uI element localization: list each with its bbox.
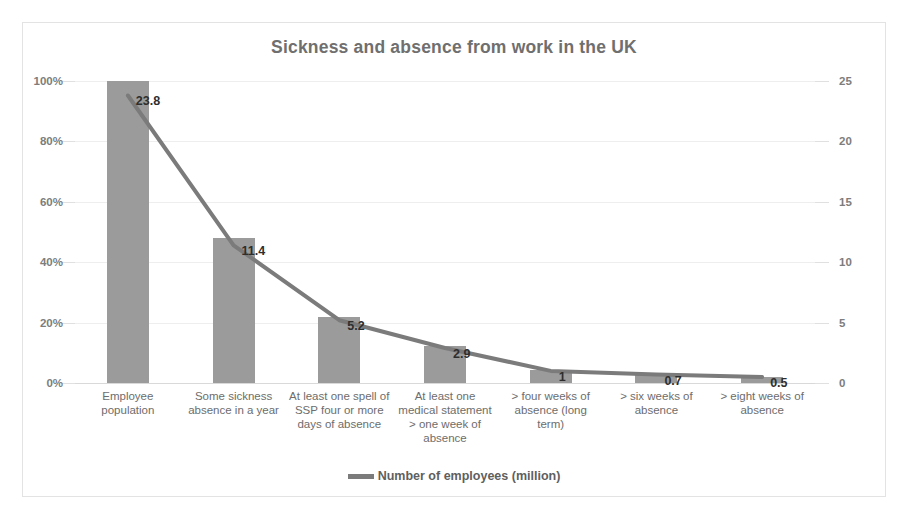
category-label: > four weeks of absence (long term) [500, 389, 601, 431]
category-label: At least one spell of SSP four or more d… [289, 389, 390, 431]
right-axis-label: 20 [839, 135, 852, 147]
legend-label: Number of employees (million) [378, 469, 561, 483]
category-label: Employee population [77, 389, 178, 417]
chart-title: Sickness and absence from work in the UK [23, 37, 885, 58]
left-axis-tick [61, 141, 75, 142]
right-axis-tick [815, 262, 829, 263]
left-axis-tick [61, 323, 75, 324]
left-axis-label: 0% [46, 377, 63, 389]
right-axis-tick [815, 81, 829, 82]
right-axis-label: 0 [839, 377, 845, 389]
plot-area: 0%20%40%60%80%100% 0510152025 23.811.45.… [75, 81, 815, 383]
right-axis-tick [815, 202, 829, 203]
left-axis-tick [61, 262, 75, 263]
data-label: 5.2 [347, 319, 364, 333]
right-axis-label: 10 [839, 256, 852, 268]
right-axis-label: 25 [839, 75, 852, 87]
right-axis-label: 5 [839, 317, 845, 329]
category-axis: Employee populationSome sickness absence… [75, 389, 815, 469]
category-label: Some sickness absence in a year [183, 389, 284, 417]
left-axis-tick [61, 383, 75, 384]
data-label: 1 [559, 370, 566, 384]
legend-line-swatch [348, 474, 374, 479]
line-series [75, 81, 815, 383]
data-label: 2.9 [453, 347, 470, 361]
left-axis-tick [61, 202, 75, 203]
right-axis-tick [815, 141, 829, 142]
left-axis-label: 40% [40, 256, 63, 268]
gridline [75, 383, 815, 384]
chart-container: Sickness and absence from work in the UK… [22, 22, 886, 497]
data-label: 0.5 [770, 376, 787, 390]
data-label: 23.8 [136, 94, 160, 108]
data-label: 11.4 [242, 244, 266, 258]
left-axis-tick [61, 81, 75, 82]
right-axis-tick [815, 383, 829, 384]
category-label: > six weeks of absence [606, 389, 707, 417]
data-label: 0.7 [664, 374, 681, 388]
line-path [128, 96, 762, 378]
left-axis-label: 80% [40, 135, 63, 147]
category-label: At least one medical statement > one wee… [395, 389, 496, 445]
left-axis-label: 100% [34, 75, 63, 87]
left-axis-label: 60% [40, 196, 63, 208]
right-axis-tick [815, 323, 829, 324]
left-axis-label: 20% [40, 317, 63, 329]
chart-legend: Number of employees (million) [23, 469, 885, 483]
right-axis-label: 15 [839, 196, 852, 208]
category-label: > eight weeks of absence [712, 389, 813, 417]
